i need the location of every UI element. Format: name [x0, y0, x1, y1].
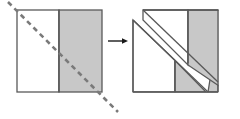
- transformation-arrow: [108, 38, 128, 44]
- mask-bottom-overflow: [128, 93, 240, 119]
- left-panel-group: [8, 2, 118, 112]
- arrow-head: [122, 38, 128, 44]
- right-panel-group: [128, 0, 240, 119]
- dissection-diagram: Dissection of a square along a diagonal: [0, 0, 240, 119]
- figure-container: Dissection of a square along a diagonal: [0, 0, 240, 119]
- right-gray-rectangle: [59, 10, 102, 92]
- left-white-rectangle: [17, 10, 59, 92]
